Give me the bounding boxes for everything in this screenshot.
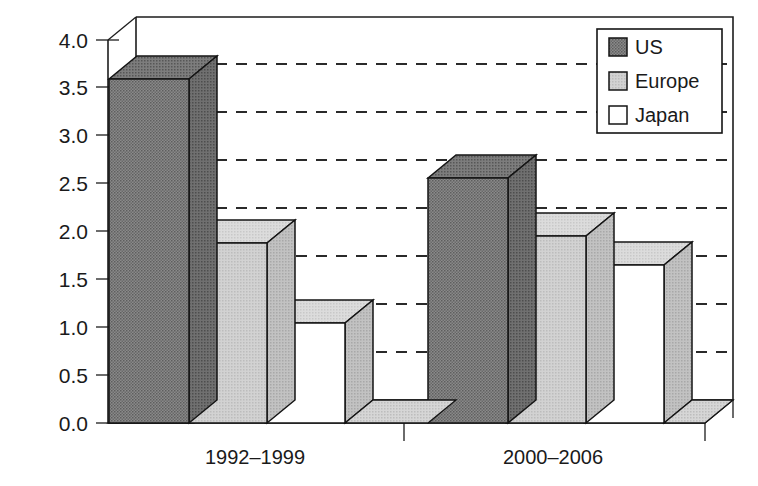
bar-2000-2006-us[interactable]: [428, 155, 536, 423]
legend-swatch-us: [609, 38, 627, 56]
legend-label-japan: Japan: [635, 104, 690, 126]
legend-swatch-europe: [609, 72, 627, 90]
ytick-label-1.5: 1.5: [59, 268, 88, 291]
chart-canvas: 4.0 3.5 3.0 2.5 2.0 1.5 1.0 0.5 0.0: [0, 0, 758, 486]
bar-chart-figure: 4.0 3.5 3.0 2.5 2.0 1.5 1.0 0.5 0.0: [0, 0, 758, 486]
ytick-label-4.0: 4.0: [59, 29, 88, 52]
ytick-label-3.5: 3.5: [59, 76, 88, 99]
ytick-label-3.0: 3.0: [59, 124, 88, 147]
ytick-label-2.5: 2.5: [59, 172, 88, 195]
bar-1992-1999-us[interactable]: [109, 56, 217, 423]
legend-item-europe[interactable]: Europe: [609, 70, 700, 92]
legend-label-us: US: [635, 36, 663, 58]
ytick-label-1.0: 1.0: [59, 316, 88, 339]
ytick-label-0.0: 0.0: [59, 412, 88, 435]
xtick-label-1: 1992–1999: [205, 446, 305, 468]
legend-item-japan[interactable]: Japan: [609, 104, 690, 126]
legend-item-us[interactable]: US: [609, 36, 663, 58]
legend-label-europe: Europe: [635, 70, 700, 92]
ytick-label-2.0: 2.0: [59, 220, 88, 243]
ytick-label-0.5: 0.5: [59, 364, 88, 387]
legend: US Europe Japan: [597, 29, 722, 133]
xtick-label-2: 2000–2006: [503, 446, 603, 468]
legend-swatch-japan: [609, 106, 627, 124]
y-axis-tick-labels: 4.0 3.5 3.0 2.5 2.0 1.5 1.0 0.5 0.0: [59, 29, 88, 435]
